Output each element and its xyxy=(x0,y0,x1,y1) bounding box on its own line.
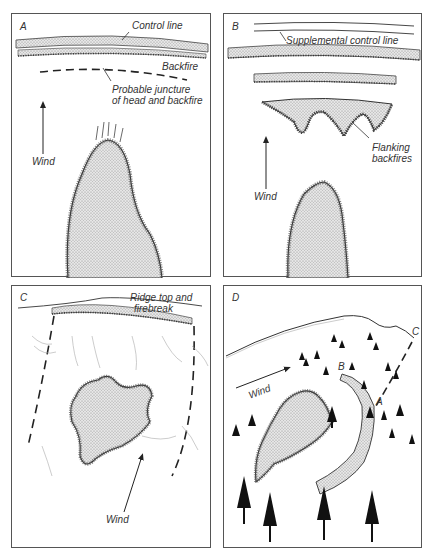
ridge-label-2: firebreak xyxy=(134,303,173,314)
panel-d-label: D xyxy=(232,292,239,303)
panel-c-label: C xyxy=(20,292,27,303)
panel-d-drawing xyxy=(224,286,423,549)
backfire-label: Backfire xyxy=(162,61,198,72)
panel-b: B Supplemental control line Flanking bac… xyxy=(223,13,422,277)
panel-a-drawing xyxy=(12,14,212,278)
control-line-label: Control line xyxy=(132,20,183,31)
panel-a: A Control line Backfire Probable junctur… xyxy=(11,13,211,277)
panel-c-drawing xyxy=(12,286,212,549)
point-b-label: B xyxy=(338,361,345,372)
point-a-label: A xyxy=(376,396,383,407)
panel-d: D Wind B A C xyxy=(223,285,422,548)
panel-a-label: A xyxy=(20,21,27,32)
tree-icons xyxy=(232,332,415,542)
juncture-label-2: of head and backfire xyxy=(112,95,203,106)
point-c-label: C xyxy=(412,326,419,337)
wind-label-a: Wind xyxy=(32,156,55,167)
ridge-label-1: Ridge top and xyxy=(130,292,192,303)
flanking-label-2: backfires xyxy=(372,153,412,164)
panel-b-label: B xyxy=(232,21,239,32)
panel-c: C Ridge top and firebreak Wind xyxy=(11,285,211,548)
juncture-label-1: Probable juncture xyxy=(112,84,190,95)
wind-label-c: Wind xyxy=(106,514,129,525)
supplemental-control-line-label: Supplemental control line xyxy=(286,35,398,46)
wind-label-b: Wind xyxy=(254,191,277,202)
flanking-label-1: Flanking xyxy=(372,142,410,153)
